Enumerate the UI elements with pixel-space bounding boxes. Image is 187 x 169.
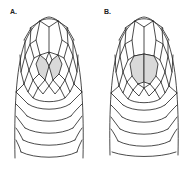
panel-b: B. [94,0,187,169]
snake-head-diagram-a [0,0,93,169]
snake-head-diagram-b [94,0,187,169]
panel-a: A. [0,0,93,169]
